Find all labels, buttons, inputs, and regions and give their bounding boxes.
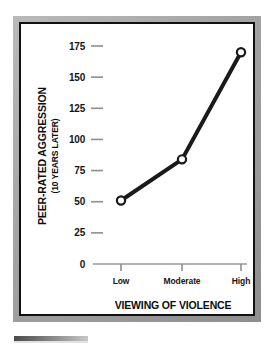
x-axis-category-label: High: [232, 276, 250, 286]
y-axis-tick-label: 0: [80, 259, 86, 270]
figure-frame-inner: 0255075100125150175LowModerateHighPEER-R…: [19, 22, 255, 316]
x-axis-title: VIEWING OF VIOLENCE: [115, 299, 232, 311]
data-point-marker[interactable]: [237, 48, 245, 56]
data-point-marker[interactable]: [178, 155, 186, 163]
y-axis-tick-label: 75: [74, 165, 85, 176]
data-line: [121, 52, 241, 200]
x-axis-category-label: Moderate: [164, 276, 201, 286]
y-axis-tick-label: 25: [74, 227, 85, 238]
y-axis-tick-label: 175: [69, 41, 86, 52]
chart-plot-area: 0255075100125150175LowModerateHighPEER-R…: [21, 24, 253, 314]
y-axis-tick-label: 100: [69, 134, 86, 145]
figure-frame: 0255075100125150175LowModerateHighPEER-R…: [13, 16, 261, 322]
x-axis-title-line2: IN CHILDHOOD: [135, 312, 211, 314]
y-axis-title: PEER-RATED AGGRESSION: [36, 87, 48, 225]
data-point-marker[interactable]: [117, 196, 125, 204]
y-axis-tick-label: 125: [69, 103, 86, 114]
line-chart: 0255075100125150175LowModerateHighPEER-R…: [21, 24, 253, 314]
y-axis-subtitle: (10 YEARS LATER): [50, 118, 60, 193]
y-axis-tick-label: 150: [69, 72, 86, 83]
caption-rule-shadow: [14, 341, 88, 343]
x-axis-category-label: Low: [113, 276, 130, 286]
y-axis-tick-label: 50: [74, 196, 85, 207]
